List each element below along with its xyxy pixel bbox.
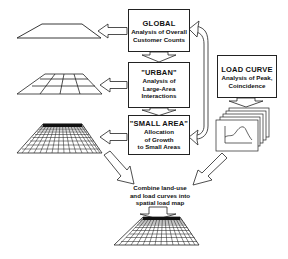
load-curve-sheets-icon <box>216 108 269 151</box>
arrow-sheets-to-combine <box>193 153 227 185</box>
arrow-global-to-map <box>98 24 127 38</box>
arrow-global-to-urban <box>142 52 176 62</box>
urban-box-line-1: Analysis of <box>129 77 189 85</box>
small-area-box-line-1: Allocation <box>129 128 189 136</box>
final-map-icon <box>114 217 199 245</box>
small-area-map-icon <box>17 124 102 153</box>
small-area-box-line-3: to Small Areas <box>129 143 189 151</box>
arrow-small-area-to-map <box>100 130 127 144</box>
global-map-icon <box>17 24 101 38</box>
feedback-double-arrow <box>189 21 208 145</box>
urban-box-line-2: Large-Area <box>129 85 189 93</box>
urban-map-icon <box>17 74 102 94</box>
urban-box-title: "URBAN" <box>129 68 189 77</box>
small-area-box-title: "SMALL AREA" <box>129 119 189 128</box>
arrow-load-curve-to-sheets <box>229 98 263 107</box>
global-box-line-1: Analysis of Overall <box>129 28 189 36</box>
load-curve-box: LOAD CURVE Analysis of Peak, Coincidence <box>217 55 277 98</box>
urban-box-line-3: Interactions <box>129 92 189 100</box>
combine-caption: Combine land-use and load curves into sp… <box>120 184 200 207</box>
load-curve-box-line-2: Coincidence <box>218 82 276 90</box>
small-area-box: "SMALL AREA" Allocation of Growth to Sma… <box>128 115 190 155</box>
urban-box: "URBAN" Analysis of Large-Area Interacti… <box>128 62 190 108</box>
arrow-map-to-combine <box>104 151 134 184</box>
arrow-urban-to-map <box>100 78 127 92</box>
combine-caption-line-2: and load curves into <box>120 192 200 200</box>
load-curve-box-line-1: Analysis of Peak, <box>218 74 276 82</box>
combine-caption-line-3: spatial load map <box>120 199 200 207</box>
global-box: GLOBAL Analysis of Overall Customer Coun… <box>128 9 190 52</box>
combine-caption-line-1: Combine land-use <box>120 184 200 192</box>
global-box-line-2: Customer Counts <box>129 36 189 44</box>
small-area-box-line-2: of Growth <box>129 136 189 144</box>
load-curve-box-title: LOAD CURVE <box>218 65 276 74</box>
global-box-title: GLOBAL <box>129 19 189 28</box>
